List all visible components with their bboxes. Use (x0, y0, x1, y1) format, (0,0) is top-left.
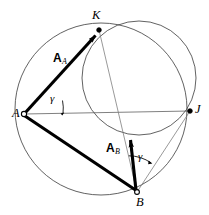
point-label-K: K (92, 9, 100, 22)
vector-label-A-A: AA (53, 49, 67, 66)
point-marker-K (97, 28, 102, 33)
vector-label-A-B-sub: B (115, 147, 120, 156)
vector-label-A-B: AB (106, 139, 120, 156)
segment-A-J (24, 111, 190, 114)
point-label-B: B (136, 196, 144, 209)
point-label-A: A (12, 107, 20, 120)
vector-label-A-B-main: A (106, 141, 115, 155)
angle-label-gamma-B: γ (138, 151, 142, 162)
point-marker-A (21, 111, 26, 116)
angle-arc-gamma-A (63, 101, 64, 114)
vector-label-A-A-main: A (53, 51, 62, 65)
diagram-canvas (0, 0, 209, 215)
vector-A-A (25, 36, 96, 114)
vector-circle-diagram: A K J B AA AB γ γ (0, 0, 209, 215)
point-marker-B (135, 190, 140, 195)
point-label-J: J (195, 103, 201, 116)
point-marker-J (188, 109, 193, 114)
segment-B-J (137, 111, 190, 192)
vector-A-B (131, 140, 137, 190)
inner-circle (82, 21, 196, 135)
angle-arc-gamma-B-tick (148, 161, 152, 165)
segment-A-B (25, 116, 137, 191)
vector-label-A-A-sub: A (62, 57, 67, 66)
angle-label-gamma-A: γ (50, 93, 54, 104)
outer-circle (15, 23, 187, 195)
